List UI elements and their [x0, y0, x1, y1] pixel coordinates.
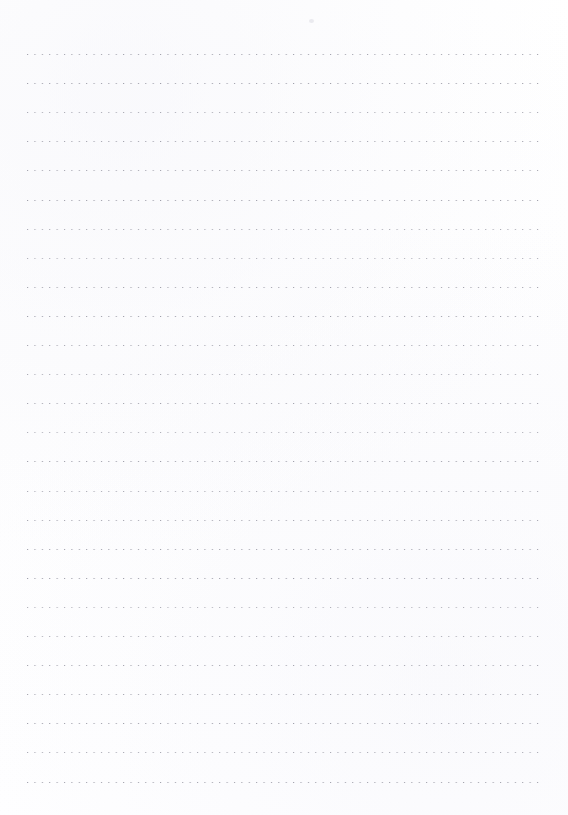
dotted-rule-line — [27, 112, 544, 114]
dotted-rule-line — [27, 54, 544, 56]
writing-paper-sheet — [0, 0, 568, 815]
dotted-rule-line — [27, 229, 544, 231]
dotted-rule-line — [27, 607, 544, 609]
dotted-rule-line — [27, 723, 544, 725]
dotted-rule-line — [27, 461, 544, 463]
dotted-rule-line — [27, 578, 544, 580]
dotted-rule-line — [27, 258, 544, 260]
dotted-rule-line — [27, 170, 544, 172]
dotted-rule-line — [27, 665, 544, 667]
dotted-rule-line — [27, 345, 544, 347]
dotted-rule-line — [27, 782, 544, 784]
dotted-rule-line — [27, 752, 544, 754]
dotted-rule-line — [27, 636, 544, 638]
dotted-rule-line — [27, 83, 544, 85]
dotted-rule-line — [27, 549, 544, 551]
dotted-rule-line — [27, 694, 544, 696]
dotted-rule-line — [27, 374, 544, 376]
dotted-rule-line — [27, 141, 544, 143]
dotted-rule-line — [27, 432, 544, 434]
dotted-rule-line — [27, 316, 544, 318]
dotted-rule-line — [27, 403, 544, 405]
ruled-lines-area — [0, 0, 568, 815]
dotted-rule-line — [27, 491, 544, 493]
dotted-rule-line — [27, 200, 544, 202]
dotted-rule-line — [27, 520, 544, 522]
dotted-rule-line — [27, 287, 544, 289]
